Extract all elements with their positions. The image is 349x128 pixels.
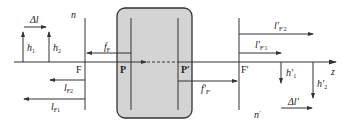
l-prime-f1-label: l′F′1 [255,40,268,51]
f-prime-label: f′F′ [201,84,211,95]
l-prime-f2-sub: F′2 [279,26,287,32]
delta-l-label: Δl [30,15,39,25]
f-prime-sub: F′ [206,89,211,95]
delta-l-text: Δl [30,14,39,25]
h2-label: h2 [53,43,61,54]
h1-prime-sub: 1 [293,73,296,79]
medium-n-prime-label: n′ [254,110,261,120]
h2-sub: 2 [58,48,61,54]
h2-prime-label: h′2 [317,79,327,90]
l-f1-label: lF1 [51,102,60,113]
l-f1-sub: F1 [54,107,60,113]
h1-sub: 1 [32,48,35,54]
n-prime-mark: ′ [259,109,261,117]
axis-z-label: z [331,67,335,77]
l-prime-f2-label: l′F′2 [274,21,287,32]
delta-l-prime-text: Δl′ [288,96,299,107]
f-f-label: fF [104,42,110,53]
l-prime-f1-sub: F′1 [260,45,268,51]
focal-point-f-prime-label: F′ [241,65,249,75]
focal-point-f-label: F [76,65,82,75]
h1-label: h1 [27,43,35,54]
l-f2-sub: F2 [67,88,73,94]
principal-point-p-label: P [120,65,126,75]
f-sub: F [107,47,110,53]
h1-prime-label: h′1 [286,68,296,79]
optical-system-box [117,8,192,118]
h2-prime-sub: 2 [324,84,327,90]
medium-n-label: n [71,10,76,20]
principal-point-p-prime-label: P′ [181,65,190,75]
l-f2-label: lF2 [64,83,73,94]
delta-l-prime-label: Δl′ [288,97,299,107]
optical-system-diagram: n Δl h1 h2 fF F P lF2 lF1 P′ f′F′ F′ l′F… [0,0,349,128]
